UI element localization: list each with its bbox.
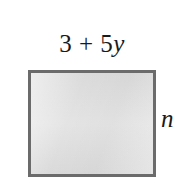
rectangle-fill (31, 73, 153, 174)
rectangle-height-label: n (161, 106, 174, 132)
rectangle-figure: 3 + 5y n (0, 0, 189, 194)
width-label-variable: y (113, 30, 125, 57)
rectangle-shape (28, 70, 156, 177)
rectangle-width-label: 3 + 5y (28, 29, 156, 59)
width-label-expression: 3 + 5 (59, 30, 113, 57)
